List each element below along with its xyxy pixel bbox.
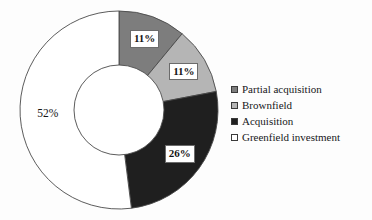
legend-item-acquisition[interactable]: Acquisition [231, 113, 369, 129]
legend-label-greenfield-investment: Greenfield investment [242, 132, 340, 143]
chart-figure: 11% 11% 26% 52% Partial acquisition Brow… [0, 0, 372, 220]
legend-item-greenfield-investment[interactable]: Greenfield investment [231, 129, 369, 145]
legend-label-brownfield: Brownfield [242, 100, 292, 111]
data-label-partial-acquisition: 11% [130, 30, 159, 48]
legend-swatch-icon-partial-acquisition [231, 86, 238, 93]
data-label-greenfield-investment: 52% [37, 108, 58, 120]
legend-swatch-icon-brownfield [231, 102, 238, 109]
legend-item-brownfield[interactable]: Brownfield [231, 97, 369, 113]
legend-swatch-icon-greenfield-investment [231, 134, 238, 141]
legend-label-partial-acquisition: Partial acquisition [242, 84, 322, 95]
chart-legend: Partial acquisition Brownfield Acquisiti… [231, 81, 369, 145]
legend-item-partial-acquisition[interactable]: Partial acquisition [231, 81, 369, 97]
data-label-acquisition: 26% [165, 145, 195, 163]
legend-swatch-icon-acquisition [231, 118, 238, 125]
data-label-brownfield: 11% [169, 63, 198, 81]
legend-label-acquisition: Acquisition [242, 116, 293, 127]
donut-hole [74, 65, 164, 155]
